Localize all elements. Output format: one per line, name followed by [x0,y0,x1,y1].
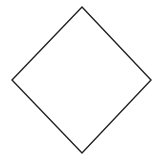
diagram-svg [0,0,161,162]
diamond-shape [12,7,151,153]
diagram-canvas [0,0,161,162]
